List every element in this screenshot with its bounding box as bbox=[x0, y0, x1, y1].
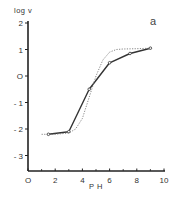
x-tick-label: 2 bbox=[53, 176, 58, 185]
data-point-marker bbox=[88, 88, 91, 91]
x-tick-label: 6 bbox=[107, 176, 112, 185]
fitted-curve bbox=[42, 48, 151, 134]
axes: 21O- 1- 2- 3O246810 bbox=[14, 19, 169, 185]
y-tick-label: O bbox=[17, 72, 23, 81]
x-axis-title: P H bbox=[89, 182, 103, 191]
x-tick-label: O bbox=[25, 176, 31, 185]
x-tick-label: 4 bbox=[80, 176, 85, 185]
observed-line bbox=[48, 48, 150, 134]
x-tick-label: 10 bbox=[160, 176, 169, 185]
series-layer bbox=[42, 47, 152, 136]
data-point-marker bbox=[68, 130, 71, 133]
y-tick-label: 1 bbox=[19, 46, 24, 55]
data-point-marker bbox=[129, 52, 132, 55]
data-point-marker bbox=[149, 47, 152, 50]
y-tick-label: - 3 bbox=[14, 152, 24, 161]
panel-label: a bbox=[150, 15, 157, 27]
x-tick-label: 8 bbox=[135, 176, 140, 185]
y-tick-label: 2 bbox=[19, 19, 24, 28]
data-point-marker bbox=[108, 61, 111, 64]
chart: 21O- 1- 2- 3O246810 log v P H a bbox=[0, 0, 179, 207]
y-tick-label: - 2 bbox=[14, 125, 24, 134]
y-tick-label: - 1 bbox=[14, 99, 24, 108]
y-axis-title: log v bbox=[14, 6, 32, 15]
